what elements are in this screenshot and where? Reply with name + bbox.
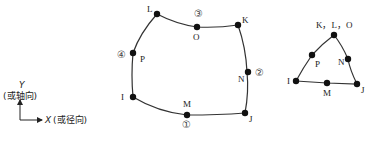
node-I [130, 94, 136, 100]
y-axis-label: Y [19, 80, 26, 90]
node-J [242, 110, 248, 116]
x-axis-note: (或径向) [53, 114, 87, 125]
face-3-label: ③ [194, 8, 203, 19]
coordinate-axes: Y (或轴向) X (或径向) [3, 80, 87, 125]
tri-label-N: N [338, 57, 345, 67]
label-M: M [183, 99, 191, 109]
y-axis-note: (或轴向) [3, 90, 37, 101]
label-P: P [140, 54, 145, 64]
tri-label-J: J [361, 85, 365, 95]
label-I: I [121, 92, 124, 102]
triangle-nodes [293, 32, 360, 87]
face-4-label: ④ [117, 49, 126, 60]
tri-node-I [293, 78, 299, 84]
node-K [235, 22, 241, 28]
x-axis-label: X [44, 115, 52, 125]
tri-node-J [354, 81, 360, 87]
label-N: N [238, 74, 245, 84]
label-K: K [242, 15, 249, 25]
triangle-element: K，L，O P N I M J [287, 20, 365, 98]
label-L: L [147, 4, 153, 14]
node-N [245, 69, 251, 75]
tri-label-P: P [315, 59, 320, 69]
node-P [130, 50, 136, 56]
tri-label-I: I [287, 76, 290, 86]
tri-node-N [345, 56, 351, 62]
label-O: O [193, 32, 200, 42]
node-L [154, 11, 160, 17]
tri-node-P [309, 52, 315, 58]
node-O [194, 24, 200, 30]
tri-label-apex: K，L，O [316, 20, 353, 30]
face-1-label: ① [182, 119, 191, 130]
label-J: J [249, 114, 253, 124]
element-diagram: Y (或轴向) X (或径向) I M J N K O L P ① ② ③ ④ [0, 0, 369, 142]
tri-node-apex [331, 32, 337, 38]
tri-node-M [324, 80, 330, 86]
face-2-label: ② [255, 67, 264, 78]
quad-element: I M J N K O L P ① ② ③ ④ [117, 4, 264, 130]
node-M [184, 112, 190, 118]
tri-label-M: M [323, 88, 331, 98]
